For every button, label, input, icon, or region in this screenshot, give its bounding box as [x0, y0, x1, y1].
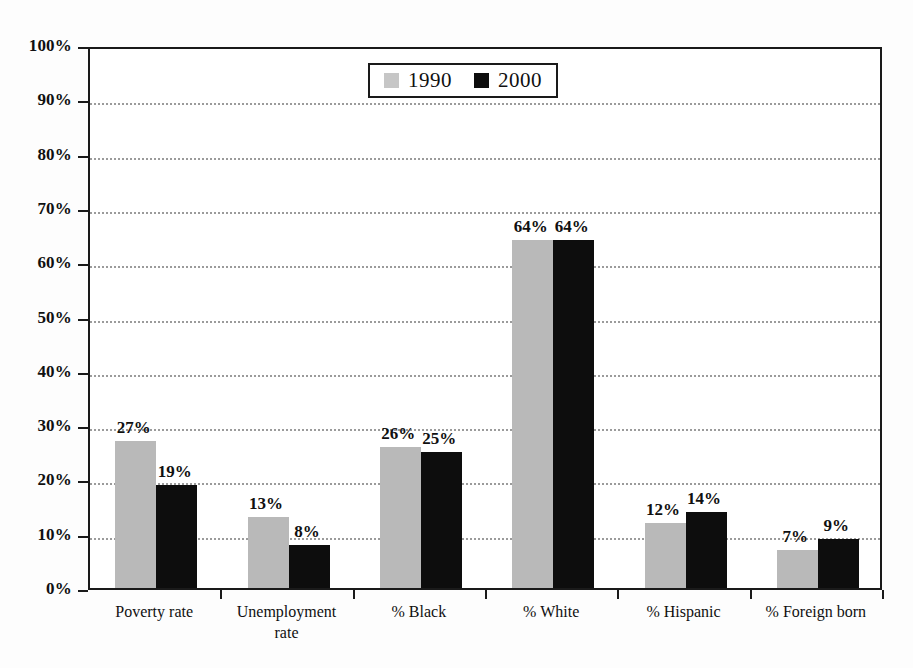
- bar-2000-5: [686, 512, 727, 588]
- y-axis-tick-label: 50%: [0, 308, 72, 328]
- x-axis-tick: [882, 590, 884, 599]
- y-axis-tick-label: 20%: [0, 470, 72, 490]
- y-axis-tick: [78, 481, 88, 483]
- x-axis-tick: [353, 590, 355, 599]
- x-axis-category-label: % Black: [353, 601, 485, 622]
- bar-value-label: 9%: [804, 516, 869, 536]
- gridline: [90, 538, 880, 540]
- black-square-swatch: [474, 73, 489, 88]
- x-axis-category-label: % Foreign born: [750, 601, 882, 622]
- gridline: [90, 103, 880, 105]
- bar-1990-4: [512, 240, 553, 588]
- x-axis-label-line: % Black: [353, 601, 485, 622]
- bar-value-label: 13%: [234, 494, 299, 514]
- x-axis-label-line: rate: [220, 622, 352, 643]
- bar-value-label: 27%: [101, 418, 166, 438]
- bar-chart: 0%10%20%30%40%50%60%70%80%90%100% Povert…: [0, 0, 913, 668]
- gray-square-swatch: [384, 73, 399, 88]
- bar-value-label: 64%: [539, 217, 604, 237]
- y-axis-tick-label: 70%: [0, 199, 72, 219]
- y-axis-tick: [78, 427, 88, 429]
- bar-value-label: 14%: [672, 489, 737, 509]
- y-axis-tick: [78, 101, 88, 103]
- y-axis-tick-label: 0%: [0, 579, 72, 599]
- y-axis-tick-label: 40%: [0, 362, 72, 382]
- bar-value-label: 8%: [275, 522, 340, 542]
- bar-value-label: 19%: [142, 462, 207, 482]
- y-axis-tick: [78, 210, 88, 212]
- bar-2000-1: [156, 485, 197, 588]
- chart-legend: 1990 2000: [368, 63, 558, 98]
- legend-label-1990: 1990: [408, 68, 452, 93]
- x-axis-tick: [617, 590, 619, 599]
- y-axis-tick: [78, 536, 88, 538]
- plot-area: [88, 47, 882, 590]
- bar-1990-5: [645, 523, 686, 588]
- x-axis-category-label: Unemploymentrate: [220, 601, 352, 643]
- y-axis-tick-label: 90%: [0, 90, 72, 110]
- bar-2000-3: [421, 452, 462, 588]
- gridline: [90, 375, 880, 377]
- x-axis-tick: [485, 590, 487, 599]
- y-axis-tick: [78, 264, 88, 266]
- gridline: [90, 429, 880, 431]
- x-axis-label-line: % Hispanic: [617, 601, 749, 622]
- gridline: [90, 266, 880, 268]
- legend-item-2000: 2000: [474, 68, 542, 93]
- y-axis-tick-label: 80%: [0, 145, 72, 165]
- y-axis-tick-label: 60%: [0, 253, 72, 273]
- y-axis-tick-label: 100%: [0, 36, 72, 56]
- x-axis-tick: [750, 590, 752, 599]
- bar-1990-6: [777, 550, 818, 588]
- x-axis-label-line: % Foreign born: [750, 601, 882, 622]
- gridline: [90, 483, 880, 485]
- x-axis-tick: [220, 590, 222, 599]
- x-axis-category-label: % White: [485, 601, 617, 622]
- y-axis-tick: [78, 156, 88, 158]
- bar-1990-3: [380, 447, 421, 588]
- gridline: [90, 158, 880, 160]
- legend-label-2000: 2000: [498, 68, 542, 93]
- x-axis-label-line: Unemployment: [220, 601, 352, 622]
- bar-2000-2: [289, 545, 330, 588]
- bar-value-label: 25%: [407, 429, 472, 449]
- x-axis-category-label: % Hispanic: [617, 601, 749, 622]
- bar-2000-4: [553, 240, 594, 588]
- y-axis-tick: [78, 47, 88, 49]
- gridline: [90, 212, 880, 214]
- y-axis-tick-label: 30%: [0, 416, 72, 436]
- y-axis-tick: [78, 590, 88, 592]
- y-axis-tick: [78, 373, 88, 375]
- y-axis-tick: [78, 319, 88, 321]
- x-axis-category-label: Poverty rate: [88, 601, 220, 622]
- y-axis-tick-label: 10%: [0, 525, 72, 545]
- x-axis-label-line: Poverty rate: [88, 601, 220, 622]
- x-axis-label-line: % White: [485, 601, 617, 622]
- gridline: [90, 321, 880, 323]
- legend-item-1990: 1990: [384, 68, 452, 93]
